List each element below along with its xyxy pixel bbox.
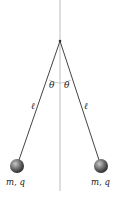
pendulum-diagram: θ θ ℓ ℓ m, q m, q bbox=[0, 0, 123, 197]
mass-charge-label-right: m, q bbox=[91, 177, 110, 187]
angle-label-left: θ bbox=[49, 80, 55, 90]
length-label-left: ℓ bbox=[31, 101, 35, 111]
mass-charge-label-left: m, q bbox=[6, 177, 25, 187]
left-charged-ball bbox=[10, 159, 24, 173]
length-label-right: ℓ bbox=[84, 101, 88, 111]
right-charged-ball bbox=[94, 159, 108, 173]
left-string bbox=[19, 41, 60, 160]
angle-label-right: θ bbox=[64, 80, 70, 90]
pivot-point bbox=[59, 40, 62, 43]
right-string bbox=[60, 41, 99, 160]
